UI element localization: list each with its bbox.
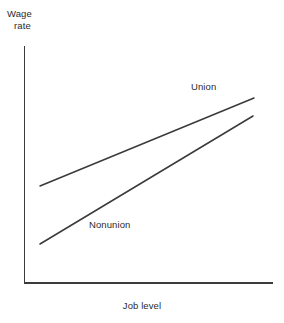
y-axis-label-line-2: rate xyxy=(7,20,32,32)
y-axis-label-line-1: Wage xyxy=(7,8,32,19)
series-label-nonunion: Nonunion xyxy=(89,219,130,231)
chart-plot-area xyxy=(0,0,284,323)
chart-figure: Wagerate Job level Union Nonunion xyxy=(0,0,284,323)
series-line-nonunion xyxy=(40,116,253,244)
y-axis-label: Wagerate xyxy=(7,8,32,32)
x-axis-label: Job level xyxy=(0,300,284,312)
series-label-union: Union xyxy=(191,81,216,93)
series-line-union xyxy=(40,98,254,186)
